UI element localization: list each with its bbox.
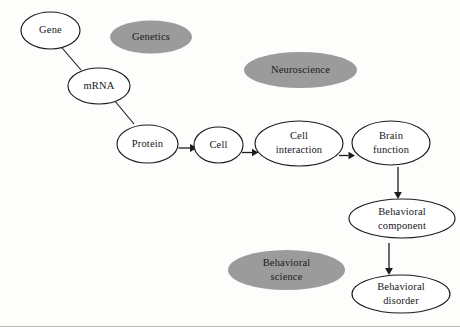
behavioral-science-ellipse (228, 250, 345, 290)
edge-gene-to-mrna (60, 46, 81, 71)
gene-label: Gene (39, 24, 62, 35)
node-behavioral-component[interactable]: Behavioral component (349, 199, 455, 238)
cell-label: Cell (209, 139, 227, 150)
brain-function-label-line2: function (373, 144, 410, 155)
node-mrna[interactable]: mRNA (68, 68, 130, 104)
diagram-svg: Genetics Neuroscience Behavioral science… (0, 0, 460, 327)
behavioral-component-ellipse (349, 199, 455, 238)
node-genetics[interactable]: Genetics (110, 21, 192, 54)
node-behavioral-science[interactable]: Behavioral science (228, 250, 345, 290)
edge-behavioral-component-to-behavioral-disorder (385, 243, 393, 275)
node-neuroscience[interactable]: Neuroscience (244, 52, 357, 88)
flow-diagram-canvas: Genetics Neuroscience Behavioral science… (0, 0, 460, 327)
behavioral-disorder-label-line1: Behavioral (377, 281, 425, 292)
node-brain-function[interactable]: Brain function (352, 121, 430, 165)
node-behavioral-disorder[interactable]: Behavioral disorder (352, 275, 450, 313)
node-cell-interaction[interactable]: Cell interaction (255, 121, 343, 166)
protein-label: Protein (132, 138, 164, 149)
node-cell[interactable]: Cell (194, 127, 243, 163)
behavioral-component-label-line1: Behavioral (378, 206, 426, 217)
mrna-label: mRNA (84, 80, 115, 91)
edge-brain-function-to-behavioral-component (394, 167, 402, 199)
neuroscience-label: Neuroscience (271, 64, 330, 75)
cell-interaction-label-line1: Cell (290, 130, 308, 141)
brain-function-label-line1: Brain (379, 130, 404, 141)
edge-mrna-to-protein (114, 100, 134, 124)
behavioral-disorder-label-line2: disorder (383, 295, 419, 306)
behavioral-component-label-line2: component (378, 220, 426, 231)
edge-cell-interaction-to-brain-function (339, 152, 355, 160)
genetics-label: Genetics (132, 31, 170, 42)
behavioral-science-label-line2: science (271, 271, 303, 282)
behavioral-science-label-line1: Behavioral (263, 257, 311, 268)
node-gene[interactable]: Gene (21, 12, 80, 49)
cell-interaction-label-line2: interaction (276, 144, 323, 155)
node-protein[interactable]: Protein (117, 125, 178, 163)
